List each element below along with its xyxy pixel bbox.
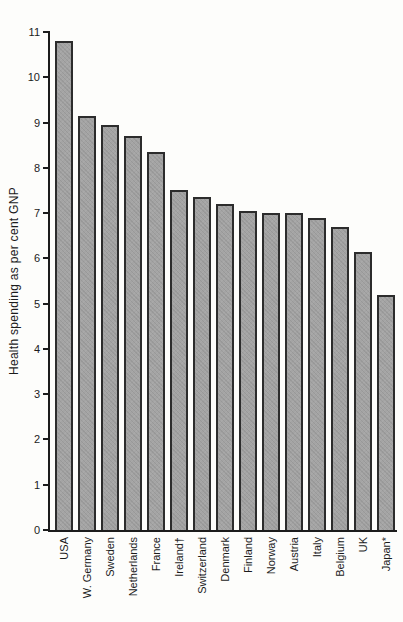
- bar-denmark: [216, 204, 234, 530]
- y-tick-mark: [43, 212, 48, 214]
- bar-sweden: [101, 125, 119, 530]
- y-axis-title: Health spending as per cent GNP: [7, 151, 21, 411]
- bar-austria: [285, 213, 303, 530]
- x-tick-label: Switzerland: [195, 537, 209, 617]
- x-tick-label: Netherlands: [126, 537, 140, 617]
- x-tick-label: Finland: [241, 537, 255, 617]
- x-tick-label: USA: [57, 537, 71, 617]
- y-tick-label: 6: [6, 251, 40, 265]
- bar-norway: [262, 213, 280, 530]
- y-tick-label: 5: [6, 297, 40, 311]
- y-tick-mark: [43, 348, 48, 350]
- bar-uk: [354, 252, 372, 530]
- plot-area: [50, 32, 395, 530]
- bar-finland: [239, 211, 257, 530]
- y-tick-label: 4: [6, 342, 40, 356]
- x-tick-label: Sweden: [103, 537, 117, 617]
- y-tick-mark: [43, 76, 48, 78]
- x-tick-label: UK: [356, 537, 370, 617]
- bar-france: [147, 152, 165, 530]
- bar-usa: [55, 41, 73, 530]
- y-tick-mark: [43, 393, 48, 395]
- y-tick-mark: [43, 484, 48, 486]
- y-tick-mark: [43, 257, 48, 259]
- y-tick-label: 8: [6, 161, 40, 175]
- bar-switzerland: [193, 197, 211, 530]
- x-tick-label: W. Germany: [80, 537, 94, 617]
- y-tick-mark: [43, 31, 48, 33]
- x-tick-label: Austria: [287, 537, 301, 617]
- x-tick-label: Italy: [310, 537, 324, 617]
- y-tick-label: 10: [6, 70, 40, 84]
- bar-italy: [308, 218, 326, 530]
- y-tick-mark: [43, 122, 48, 124]
- y-tick-mark: [43, 303, 48, 305]
- x-tick-label: Denmark: [218, 537, 232, 617]
- bar-chart-figure: Health spending as per cent GNP 01234567…: [0, 0, 403, 622]
- x-tick-label: Norway: [264, 537, 278, 617]
- bar-netherlands: [124, 136, 142, 530]
- y-tick-label: 2: [6, 432, 40, 446]
- bar-ireland: [170, 190, 188, 530]
- y-tick-mark: [43, 529, 48, 531]
- bar-japan: [377, 295, 395, 530]
- x-tick-label: Ireland†: [172, 537, 186, 617]
- bar-w-germany: [78, 116, 96, 530]
- x-tick-label: Japan*: [379, 537, 393, 617]
- x-tick-label: France: [149, 537, 163, 617]
- y-tick-label: 9: [6, 116, 40, 130]
- y-tick-mark: [43, 167, 48, 169]
- y-tick-label: 11: [6, 25, 40, 39]
- y-tick-label: 0: [6, 523, 40, 537]
- x-axis-line: [48, 530, 397, 532]
- x-tick-label: Belgium: [333, 537, 347, 617]
- y-tick-label: 3: [6, 387, 40, 401]
- y-tick-mark: [43, 438, 48, 440]
- y-tick-label: 7: [6, 206, 40, 220]
- y-tick-label: 1: [6, 478, 40, 492]
- bar-belgium: [331, 227, 349, 530]
